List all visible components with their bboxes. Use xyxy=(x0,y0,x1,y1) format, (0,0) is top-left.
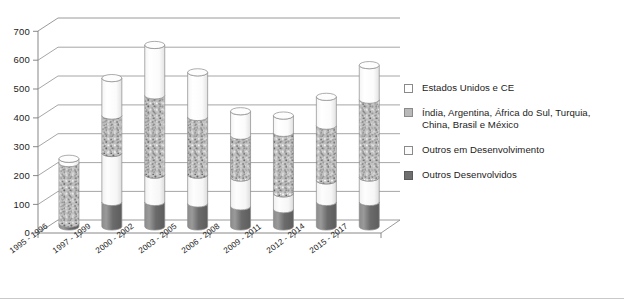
bar-segment xyxy=(102,78,122,119)
bar-segment xyxy=(145,175,165,206)
bar-segment-texture xyxy=(102,116,121,152)
bar-top-cap xyxy=(273,112,293,119)
bar-segment xyxy=(316,202,336,230)
bar-segment xyxy=(359,202,379,230)
y-tick-label: 500 xyxy=(0,83,30,94)
bar-segment-texture xyxy=(145,96,164,174)
y-tick-label: 300 xyxy=(0,141,30,152)
bar-segment xyxy=(188,203,208,230)
bar-segment-texture xyxy=(60,164,79,223)
y-tick-label: 100 xyxy=(0,199,30,210)
x-axis-labels: 1995 - 1996 1997 - 1999 2000 - 2002 2003… xyxy=(0,0,400,80)
chart-screenshot: 700 600 500 400 300 200 100 0 1995 - 199… xyxy=(0,0,624,303)
bar-segment xyxy=(359,178,379,206)
legend-item-label: Índia, Argentina, África do Sul, Turquia… xyxy=(422,107,620,132)
bar-segment-texture xyxy=(188,118,207,174)
bar-segment xyxy=(102,153,122,206)
bar-segment-texture xyxy=(360,100,379,177)
legend-item[interactable]: Estados Unidos e CE xyxy=(404,82,620,94)
bar-segment xyxy=(231,111,251,139)
bar-segment-texture xyxy=(317,126,336,180)
legend-item-label: Outros em Desenvolvimento xyxy=(422,144,544,156)
bar-segment xyxy=(102,202,122,230)
legend-swatch-icon xyxy=(404,108,413,117)
bar-top-cap xyxy=(316,93,336,100)
legend-swatch-icon xyxy=(404,146,413,155)
footer-divider xyxy=(0,298,624,299)
y-tick-label: 400 xyxy=(0,112,30,123)
legend-item[interactable]: Índia, Argentina, África do Sul, Turquia… xyxy=(404,107,620,132)
legend-swatch-icon xyxy=(404,84,413,93)
bar-segment xyxy=(188,175,208,207)
legend-swatch-icon xyxy=(404,171,413,180)
legend-item-label: Outros Desenvolvidos xyxy=(422,169,517,181)
bar-segment xyxy=(316,97,336,129)
bar-segment xyxy=(231,178,251,210)
bar-segment-texture xyxy=(231,136,250,177)
chart-legend: Estados Unidos e CE Índia, Argentina, Áf… xyxy=(404,82,620,194)
legend-item-label: Estados Unidos e CE xyxy=(422,82,514,94)
bar-segment xyxy=(145,202,165,230)
chart-plot-area: 700 600 500 400 300 200 100 0 1995 - 199… xyxy=(0,0,400,260)
legend-item[interactable]: Outros Desenvolvidos xyxy=(404,169,620,181)
legend-item[interactable]: Outros em Desenvolvimento xyxy=(404,144,620,156)
bar-top-cap xyxy=(59,155,79,162)
bar-top-cap xyxy=(231,108,251,115)
y-tick-label: 200 xyxy=(0,170,30,181)
bar-segment-texture xyxy=(274,133,293,192)
